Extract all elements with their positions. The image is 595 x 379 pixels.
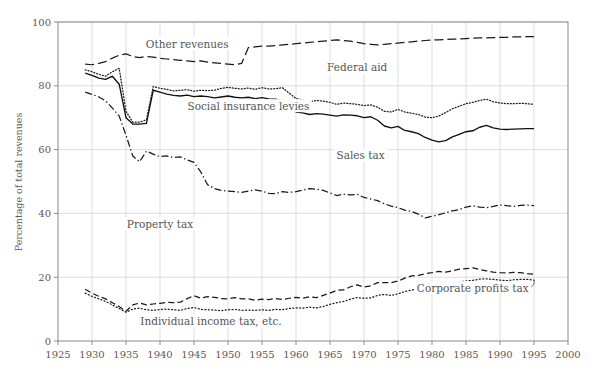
y-tick-label: 20 — [38, 272, 51, 283]
x-tick-label: 1960 — [283, 349, 308, 360]
x-tick-label: 1985 — [453, 349, 478, 360]
y-tick-label: 80 — [38, 80, 51, 91]
x-tick-label: 1925 — [45, 349, 70, 360]
y-tick-label: 100 — [32, 17, 51, 28]
annotation-federal-aid: Federal aid — [327, 61, 387, 73]
x-tick-label: 1955 — [249, 349, 274, 360]
annotation-social-insurance-levies: Social insurance levies — [187, 100, 309, 112]
y-tick-label: 60 — [38, 144, 51, 155]
x-tick-label: 1980 — [419, 349, 444, 360]
x-tick-label: 2000 — [555, 349, 580, 360]
annotation-individual-income-tax-etc: Individual income tax, etc. — [140, 315, 281, 327]
annotation-corporate-profits-tax: Corporate profits tax — [417, 282, 529, 294]
annotation-sales-tax: Sales tax — [337, 149, 385, 161]
revenue-composition-chart: 020406080100 192519301935194019451950195… — [0, 0, 595, 379]
x-tick-label: 1950 — [215, 349, 240, 360]
x-tick-label: 1940 — [147, 349, 172, 360]
x-tick-label: 1970 — [351, 349, 376, 360]
y-axis-label: Percentage of total revenues — [13, 113, 24, 252]
annotation-other-revenues: Other revenues — [146, 38, 229, 50]
chart-figure: 020406080100 192519301935194019451950195… — [0, 0, 595, 379]
x-tick-label: 1975 — [385, 349, 410, 360]
x-tick-label: 1990 — [487, 349, 512, 360]
annotation-property-tax: Property tax — [127, 218, 193, 230]
x-tick-label: 1930 — [79, 349, 104, 360]
y-tick-label: 0 — [45, 336, 51, 347]
x-tick-label: 1995 — [521, 349, 546, 360]
x-tick-label: 1965 — [317, 349, 342, 360]
y-tick-label: 40 — [38, 208, 51, 219]
x-tick-label: 1935 — [113, 349, 138, 360]
x-tick-label: 1945 — [181, 349, 206, 360]
chart-background — [0, 0, 595, 379]
